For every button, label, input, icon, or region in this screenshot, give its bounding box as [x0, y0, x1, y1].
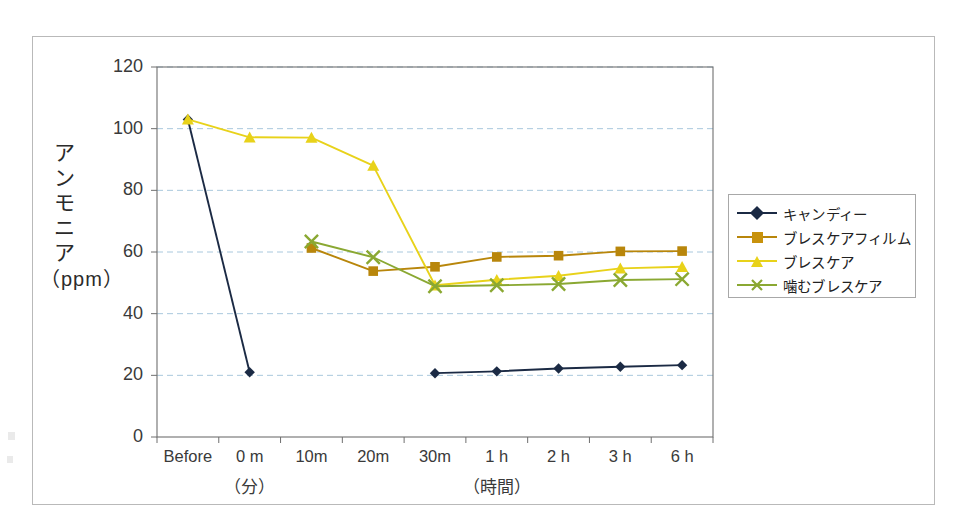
series-line	[188, 119, 682, 285]
legend: キャンディー ブレスケアフィルム ブレスケア 噛むブレスケア	[728, 194, 916, 298]
data-point-cross	[367, 251, 380, 264]
data-point-square	[492, 252, 502, 262]
x-axis-tick-label: Before	[153, 447, 223, 466]
legend-item[interactable]: キャンディー	[737, 201, 907, 225]
y-axis-tick-label: 60	[97, 241, 143, 262]
x-axis-tick-label: 6 h	[647, 447, 717, 466]
legend-item-label: 噛むブレスケア	[783, 275, 882, 296]
y-axis-tick-label: 80	[97, 179, 143, 200]
x-axis-tick-label: 10m	[276, 447, 346, 466]
data-point-square	[368, 266, 378, 276]
x-axis-group-label: （時間）	[452, 473, 542, 498]
legend-item[interactable]: 噛むブレスケア	[737, 273, 907, 297]
legend-item[interactable]: ブレスケアフィルム	[737, 225, 907, 249]
y-axis-tick-label: 100	[97, 118, 143, 139]
data-point-triangle	[367, 160, 379, 171]
data-series	[182, 114, 689, 379]
legend-marker-square-icon	[737, 228, 777, 246]
data-point-diamond	[430, 368, 440, 378]
legend-item-label: キャンディー	[783, 203, 867, 224]
data-point-diamond	[553, 363, 563, 373]
y-axis-tick-label: 40	[97, 303, 143, 324]
series	[307, 243, 687, 276]
legend-item-label: ブレスケア	[783, 251, 854, 272]
series	[305, 235, 689, 293]
legend-marker-diamond-icon	[737, 204, 777, 222]
x-axis-tick-label: 2 h	[524, 447, 594, 466]
x-axis-tick-label: 3 h	[585, 447, 655, 466]
x-axis-tick-label: 1 h	[462, 447, 532, 466]
x-axis-tick-label: 0 m	[215, 447, 285, 466]
axis-ticks	[151, 67, 713, 443]
data-point-square	[430, 262, 440, 272]
x-axis-tick-label: 30m	[400, 447, 470, 466]
x-axis-tick-label: 20m	[338, 447, 408, 466]
legend-item-label: ブレスケアフィルム	[783, 227, 911, 248]
data-point-diamond	[615, 362, 625, 372]
data-point-diamond	[677, 360, 687, 370]
data-point-square	[677, 246, 687, 256]
y-axis-tick-label: 120	[97, 56, 143, 77]
gridlines	[157, 67, 713, 375]
data-point-diamond	[244, 367, 254, 377]
legend-marker-triangle-icon	[737, 252, 777, 270]
y-axis-tick-label: 0	[97, 426, 143, 447]
series-line	[188, 119, 250, 372]
legend-marker-cross-icon	[737, 276, 777, 294]
x-axis-group-label: （分）	[205, 473, 295, 498]
legend-item[interactable]: ブレスケア	[737, 249, 907, 273]
data-point-square	[554, 251, 564, 261]
series	[183, 114, 688, 378]
data-point-square	[616, 247, 626, 257]
y-axis-tick-label: 20	[97, 364, 143, 385]
